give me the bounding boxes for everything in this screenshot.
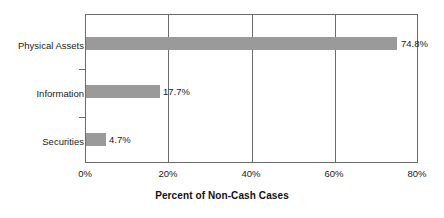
bar-row: 74.8% <box>86 19 417 68</box>
bars-layer: 74.8% 17.7% 4.7% <box>86 15 417 162</box>
xtick-label-40: 40% <box>221 168 281 179</box>
xtick-label-0: 0% <box>55 168 115 179</box>
bar-chart: 74.8% 17.7% 4.7% Physical Assets Informa… <box>0 0 444 218</box>
category-label-securities: Securities <box>0 136 84 147</box>
bar-value-physical-assets: 74.8% <box>401 34 428 53</box>
category-tick-1 <box>79 69 85 70</box>
xtick-label-60: 60% <box>304 168 364 179</box>
category-label-physical-assets: Physical Assets <box>0 40 84 51</box>
xtick-label-20: 20% <box>138 168 198 179</box>
bar-row: 17.7% <box>86 67 417 116</box>
x-axis-title: Percent of Non-Cash Cases <box>0 190 444 201</box>
category-label-information: Information <box>0 88 84 99</box>
xtick-label-80: 80% <box>387 168 444 179</box>
bar-information[interactable] <box>86 85 160 98</box>
bar-value-information: 17.7% <box>163 82 190 101</box>
bar-securities[interactable] <box>86 133 106 146</box>
bar-row: 4.7% <box>86 115 417 164</box>
category-tick-2 <box>79 117 85 118</box>
bar-value-securities: 4.7% <box>109 130 131 149</box>
bar-physical-assets[interactable] <box>86 37 397 50</box>
